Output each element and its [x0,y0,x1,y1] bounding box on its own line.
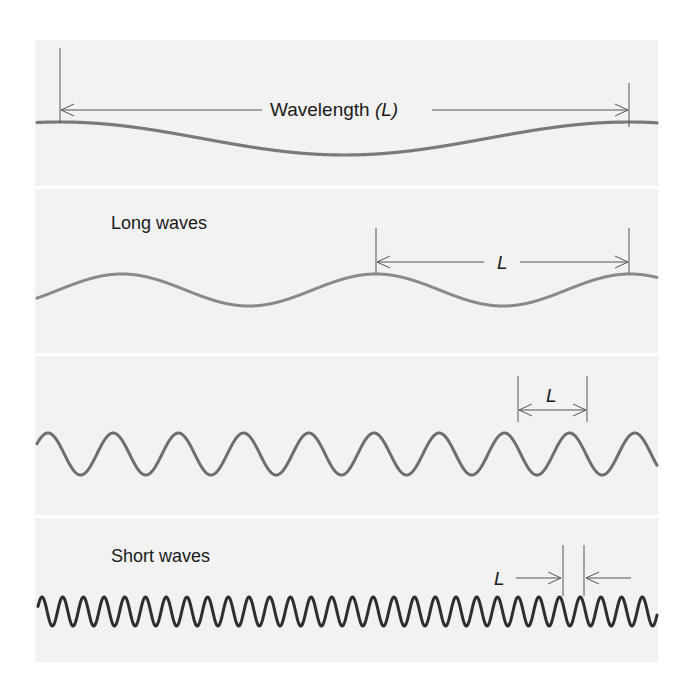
wavelength-symbol: L [494,568,505,589]
panel-separator [35,515,658,518]
long-waves-label: Long waves [111,213,207,233]
wavelength-label: Wavelength (L) [270,99,398,120]
panel-separator [35,353,658,356]
short-waves-label: Short waves [111,546,210,566]
panel-separator [35,186,658,189]
panel-background [35,40,658,662]
wavelength-symbol: (L) [375,99,398,120]
wavelength-symbol: L [497,252,508,273]
wavelength-symbol: L [546,385,557,406]
wavelength-diagram: Wavelength (L) Long waves L L Short wave… [0,0,696,682]
